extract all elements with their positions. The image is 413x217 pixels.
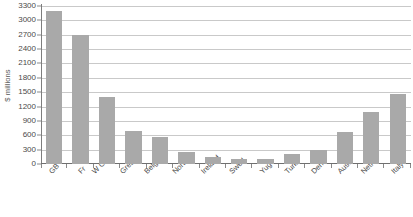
bar[interactable] (337, 132, 353, 164)
bar[interactable] (205, 157, 221, 164)
plot-area (41, 6, 411, 164)
y-axis-tick-label: 1800 (18, 74, 36, 82)
bar-slot (332, 6, 358, 164)
y-axis-tick-label: 300 (23, 146, 36, 154)
bar-slot (147, 6, 173, 164)
y-axis-title-text: $ millions (3, 69, 12, 101)
y-axis-tick-label: 1200 (18, 103, 36, 111)
x-axis-label-slot: GB (41, 168, 67, 214)
y-axis-tick-label: 2400 (18, 45, 36, 53)
x-axis-label-slot: Norway (173, 168, 199, 214)
bar-slot (41, 6, 67, 164)
y-axis-tick-label: 900 (23, 117, 36, 125)
x-axis-tick-labels: GBFrW GermGreeceBelg/LuxNorwayIrelandSwe… (41, 168, 411, 214)
x-axis-label-slot: W Germ (94, 168, 120, 214)
x-axis-label-slot: Swed (226, 168, 252, 214)
bar-slot (226, 6, 252, 164)
bar[interactable] (178, 152, 194, 164)
bar-slot (120, 6, 146, 164)
bar-slot (252, 6, 278, 164)
bar[interactable] (231, 159, 247, 164)
bar[interactable] (363, 112, 379, 164)
bar-slot (384, 6, 410, 164)
x-axis-label-slot: Belg/Lux (147, 168, 173, 214)
x-axis-label-slot: Yug (252, 168, 278, 214)
bar[interactable] (152, 137, 168, 164)
x-axis-label-slot: Italy (384, 168, 410, 214)
x-axis-label-slot: Turk (279, 168, 305, 214)
x-axis-label-slot: Neths (358, 168, 384, 214)
y-axis-tick-label: 2100 (18, 59, 36, 67)
bar-chart: $ millions 03006009001200150018002100240… (0, 0, 413, 217)
bar-slot (358, 6, 384, 164)
y-axis-tick-label: 1500 (18, 88, 36, 96)
bar-slot (305, 6, 331, 164)
x-axis-label-slot: Ireland (200, 168, 226, 214)
bar[interactable] (99, 97, 115, 164)
bar-slot (200, 6, 226, 164)
y-axis-tick-label: 600 (23, 131, 36, 139)
bar[interactable] (46, 11, 62, 164)
bar-slot (67, 6, 93, 164)
y-axis-tick-label: 3000 (18, 16, 36, 24)
bar[interactable] (257, 159, 273, 164)
x-axis-label-slot: Aust (332, 168, 358, 214)
bar-slot (94, 6, 120, 164)
bar[interactable] (390, 94, 406, 164)
x-axis-tick-label: Fr (77, 165, 87, 175)
y-axis-tick-label: 2700 (18, 31, 36, 39)
bar[interactable] (310, 150, 326, 164)
x-axis-tick-label: GB (48, 162, 61, 175)
bar[interactable] (284, 154, 300, 164)
bar[interactable] (72, 35, 88, 164)
x-axis-label-slot: Den (305, 168, 331, 214)
y-axis-tick-labels: 0300600900120015001800210024002700300033… (12, 6, 41, 164)
y-axis-tick-label: 0 (32, 160, 36, 168)
x-axis-label-slot: Fr (67, 168, 93, 214)
bar-slot (173, 6, 199, 164)
bar-series (41, 6, 411, 164)
bar[interactable] (125, 131, 141, 164)
x-axis-label-slot: Greece (120, 168, 146, 214)
bar-slot (279, 6, 305, 164)
y-axis-tick-label: 3300 (18, 2, 36, 10)
